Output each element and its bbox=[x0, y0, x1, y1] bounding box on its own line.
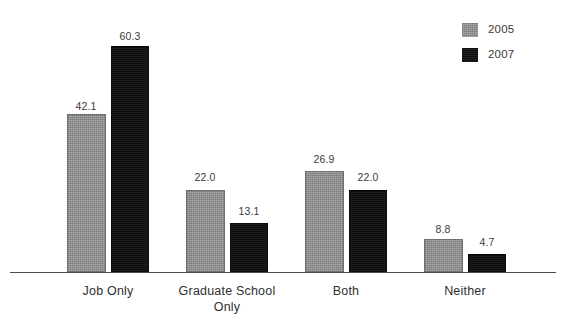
x-axis-line bbox=[10, 272, 556, 273]
bar-2005-graduate-school-only[interactable] bbox=[186, 190, 225, 272]
bar-value-2005-both: 26.9 bbox=[294, 154, 354, 165]
bar-value-2005-job-only: 42.1 bbox=[56, 101, 116, 112]
bar-2005-both[interactable] bbox=[305, 171, 344, 272]
bar-value-2005-graduate-school-only: 22.0 bbox=[175, 172, 235, 183]
x-axis-label-job-only: Job Only bbox=[58, 283, 158, 299]
bar-2005-job-only[interactable] bbox=[67, 114, 106, 272]
bar-value-2007-job-only: 60.3 bbox=[100, 31, 160, 42]
bar-chart: 2005 2007 42.1 60.3 22.0 13.1 26.9 22.0 … bbox=[0, 0, 571, 332]
bar-value-2007-graduate-school-only: 13.1 bbox=[219, 206, 279, 217]
x-axis-label-neither: Neither bbox=[415, 283, 515, 299]
bar-2007-graduate-school-only[interactable] bbox=[230, 223, 268, 272]
x-axis-label-graduate-school-only: Graduate School Only bbox=[177, 283, 277, 315]
plot-area: 42.1 60.3 22.0 13.1 26.9 22.0 8.8 4.7 bbox=[0, 0, 571, 272]
bar-2007-both[interactable] bbox=[349, 190, 387, 272]
x-axis-label-both: Both bbox=[296, 283, 396, 299]
bar-value-2007-both: 22.0 bbox=[338, 172, 398, 183]
bar-2007-job-only[interactable] bbox=[111, 46, 149, 272]
bar-value-2005-neither: 8.8 bbox=[413, 224, 473, 235]
bar-value-2007-neither: 4.7 bbox=[457, 237, 517, 248]
bar-2007-neither[interactable] bbox=[468, 254, 506, 272]
